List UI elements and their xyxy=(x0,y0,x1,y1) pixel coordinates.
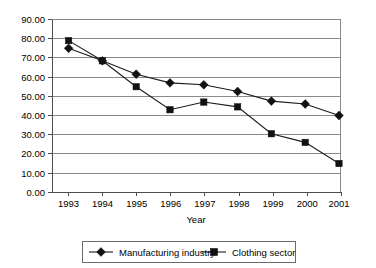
chart-legend: Manufacturing industry Clothing sector xyxy=(83,242,296,263)
x-axis-tick-labels: 1993 1994 1995 1996 1997 1998 1999 2000 … xyxy=(58,198,350,209)
legend-label: Clothing sector xyxy=(232,247,295,258)
square-marker-icon xyxy=(201,99,207,105)
square-marker-icon xyxy=(65,37,71,43)
x-tick-label: 1994 xyxy=(92,198,113,209)
x-tick-label: 2001 xyxy=(328,198,349,209)
y-tick-label: 10.00 xyxy=(21,168,45,179)
x-axis-title: Year xyxy=(186,214,205,225)
x-tick-label: 1999 xyxy=(263,198,284,209)
x-tick-label: 1993 xyxy=(58,198,79,209)
series-layer xyxy=(64,37,343,166)
y-tick-label: 40.00 xyxy=(21,110,45,121)
y-tick-label: 0.00 xyxy=(27,187,46,198)
square-marker-icon xyxy=(302,139,308,145)
line-chart: 90.00 80.00 70.00 60.00 50.00 40.00 30.0… xyxy=(0,0,376,268)
square-marker-icon xyxy=(210,248,217,255)
y-tick-label: 50.00 xyxy=(21,91,45,102)
diamond-marker-icon xyxy=(335,111,344,120)
y-tick-label: 20.00 xyxy=(21,148,45,159)
x-tick-label: 1997 xyxy=(194,198,215,209)
y-tick-label: 70.00 xyxy=(21,52,45,63)
series-clothing-sector xyxy=(65,37,342,166)
x-tick-label: 1998 xyxy=(228,198,249,209)
x-tick-label: 1995 xyxy=(126,198,147,209)
series-manufacturing-industry xyxy=(64,44,343,120)
y-axis-ticks xyxy=(48,20,52,193)
square-marker-icon xyxy=(99,58,105,64)
square-marker-icon xyxy=(268,131,274,137)
square-marker-icon xyxy=(336,160,342,166)
square-marker-icon xyxy=(167,107,173,113)
diamond-marker-icon xyxy=(64,44,73,53)
diamond-marker-icon xyxy=(199,80,208,89)
y-tick-label: 60.00 xyxy=(21,72,45,83)
square-marker-icon xyxy=(133,84,139,90)
legend-label: Manufacturing industry xyxy=(119,247,215,258)
diamond-marker-icon xyxy=(166,78,175,87)
diamond-marker-icon xyxy=(301,100,310,109)
y-tick-label: 80.00 xyxy=(21,33,45,44)
square-marker-icon xyxy=(234,104,240,110)
x-axis-ticks xyxy=(69,192,341,196)
y-axis-tick-labels: 90.00 80.00 70.00 60.00 50.00 40.00 30.0… xyxy=(21,14,45,198)
diamond-marker-icon xyxy=(233,87,242,96)
x-tick-label: 1996 xyxy=(160,198,181,209)
diamond-marker-icon xyxy=(267,97,276,106)
x-tick-label: 2000 xyxy=(297,198,318,209)
y-tick-label: 30.00 xyxy=(21,129,45,140)
gridlines xyxy=(52,20,341,174)
y-tick-label: 90.00 xyxy=(21,14,45,25)
